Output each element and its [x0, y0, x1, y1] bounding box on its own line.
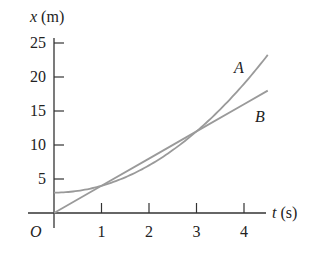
series-b-label: B — [255, 108, 265, 125]
x-tick-label: 2 — [145, 223, 153, 240]
x-tick-label: 3 — [193, 223, 201, 240]
y-tick-label: 20 — [30, 68, 46, 85]
y-axis-label: x (m) — [29, 8, 64, 26]
origin-label: O — [30, 223, 42, 240]
x-axis-ticks: 1234 — [98, 203, 249, 240]
x-axis-label: t (s) — [272, 204, 297, 222]
x-tick-label: 4 — [240, 223, 248, 240]
series-b-line — [54, 91, 268, 213]
x-tick-label: 1 — [98, 223, 106, 240]
y-tick-label: 15 — [30, 102, 46, 119]
position-time-chart: 510152025 1234 x (m) t (s) O A B — [0, 0, 326, 255]
series-a-label: A — [233, 59, 244, 76]
y-tick-label: 10 — [30, 136, 46, 153]
y-axis-ticks: 510152025 — [30, 34, 64, 187]
y-tick-label: 5 — [38, 170, 46, 187]
y-tick-label: 25 — [30, 34, 46, 51]
